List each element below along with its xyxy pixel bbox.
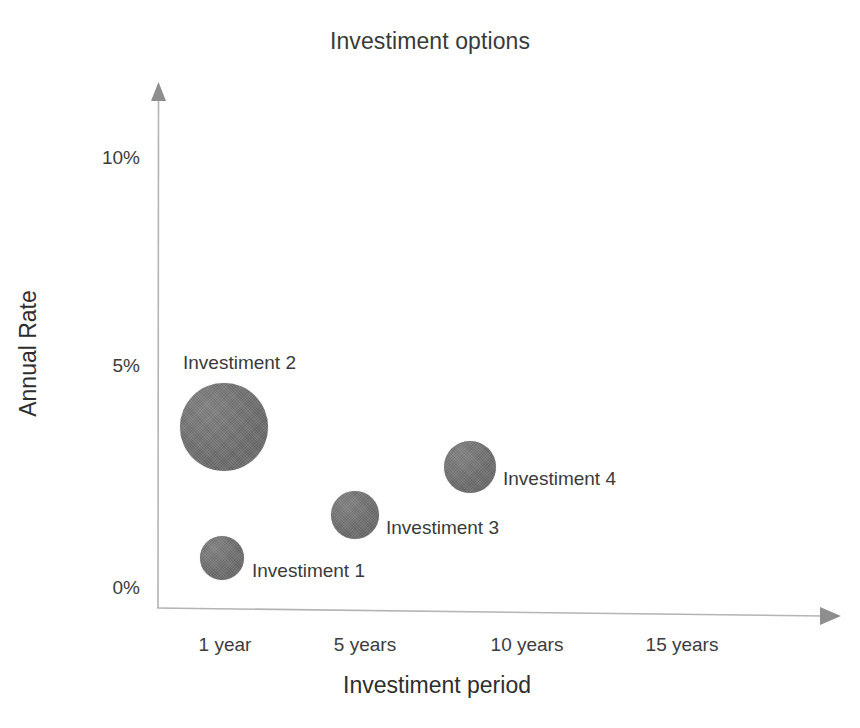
x-tick-label-15-years: 15 years xyxy=(602,634,762,656)
x-tick-label-5-years: 5 years xyxy=(285,634,445,656)
x-axis-arrowhead xyxy=(820,607,841,625)
bubble-label-investiment-1: Investiment 1 xyxy=(252,560,365,582)
x-axis-tick-row: 1 year 5 years 10 years 15 years xyxy=(0,634,860,660)
bubble-investiment-3[interactable] xyxy=(331,491,379,539)
x-tick-label-10-years: 10 years xyxy=(447,634,607,656)
x-axis-title: Investiment period xyxy=(157,672,717,699)
x-tick-label-1-year: 1 year xyxy=(145,634,305,656)
bubble-investiment-2[interactable] xyxy=(180,383,268,471)
bubble-label-investiment-3: Investiment 3 xyxy=(386,517,499,539)
y-axis-arrowhead xyxy=(151,82,166,101)
bubble-investiment-4[interactable] xyxy=(444,441,496,493)
x-axis-line xyxy=(157,608,824,616)
chart-page: Investiment options Annual Rate Investim… xyxy=(0,0,860,728)
y-tick-label: 0% xyxy=(70,577,140,599)
bubble-label-investiment-2: Investiment 2 xyxy=(183,352,296,374)
bubble-label-investiment-4: Investiment 4 xyxy=(503,468,616,490)
y-tick-label: 5% xyxy=(70,355,140,377)
y-axis-title: Annual Rate xyxy=(15,254,42,454)
y-tick-label: 10% xyxy=(70,147,140,169)
bubble-investiment-1[interactable] xyxy=(200,536,244,580)
y-axis-line xyxy=(158,98,159,608)
